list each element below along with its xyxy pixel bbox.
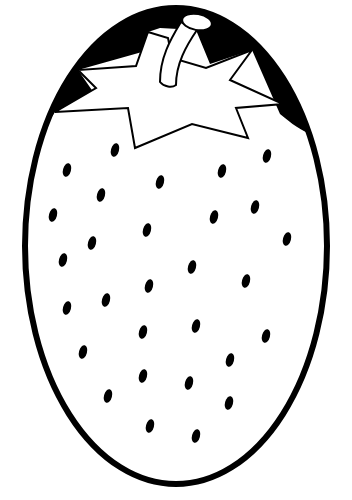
strawberry-illustration xyxy=(0,0,352,500)
strawberry-drawing xyxy=(0,0,352,500)
